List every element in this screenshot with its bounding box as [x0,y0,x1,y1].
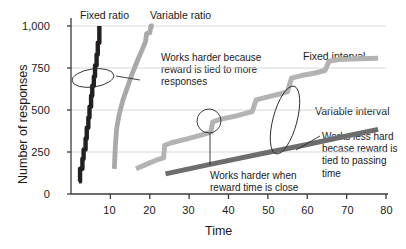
series-fixed-ratio [79,26,99,181]
series-layer [79,26,378,181]
plot-area [0,0,406,249]
axis-layer [67,18,388,199]
series-variable-ratio [114,26,153,169]
chart-figure: 1,000 750 500 250 0 Number of responses … [0,0,406,249]
